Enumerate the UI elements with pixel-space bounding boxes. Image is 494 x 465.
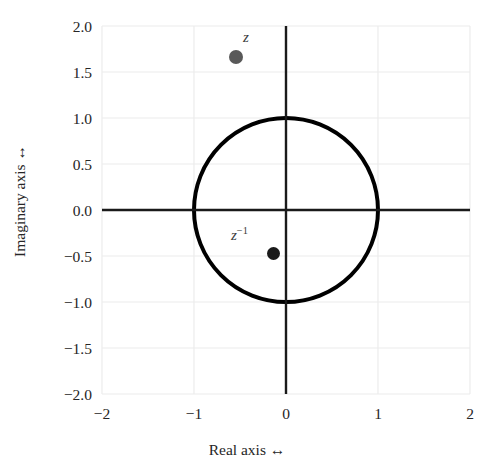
- y-tick-label--0.5: −0.5: [32, 248, 92, 266]
- x-tick-label--2: −2: [82, 405, 122, 423]
- y-tick-label--1.5: −1.5: [32, 340, 92, 358]
- y-tick-label-1.0: 1.0: [32, 110, 92, 128]
- complex-plane-chart: z z−1 2.0 1.5 1.0 0.5 0.0 −0.5 −1.0 −1.5…: [0, 0, 494, 465]
- x-tick-label-0: 0: [266, 405, 306, 423]
- x-axis-title: Real axis ↔: [0, 441, 494, 459]
- y-tick-label--2.0: −2.0: [32, 386, 92, 404]
- x-tick-label--1: −1: [174, 405, 214, 423]
- x-tick-label-2: 2: [450, 405, 490, 423]
- y-axis-title: Imaginary axis ↔: [11, 91, 29, 311]
- data-point-z: [229, 50, 243, 64]
- y-tick-label--1.0: −1.0: [32, 294, 92, 312]
- y-tick-label-0.0: 0.0: [32, 202, 92, 220]
- y-tick-label-0.5: 0.5: [32, 156, 92, 174]
- data-label-z: z: [243, 29, 249, 46]
- data-point-z-inverse: [267, 247, 280, 260]
- x-tick-label-1: 1: [358, 405, 398, 423]
- y-tick-label-1.5: 1.5: [32, 64, 92, 82]
- data-label-z-inverse: z−1: [231, 227, 248, 244]
- y-tick-label-2.0: 2.0: [32, 18, 92, 36]
- y-axis-title-wrapper: Imaginary axis ↔: [11, 91, 33, 311]
